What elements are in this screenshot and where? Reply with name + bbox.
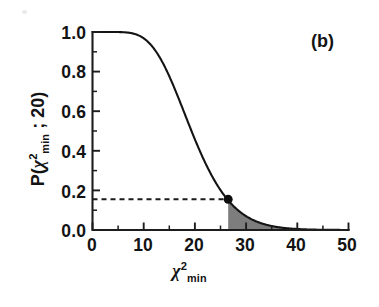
y-tick-label-5: 0.2 xyxy=(44,184,86,202)
y-tick-label-2: 0.8 xyxy=(44,64,86,82)
y-axis-title: P(χ2min ; 20) xyxy=(29,39,47,239)
panel-label: (b) xyxy=(311,31,334,52)
chi-square-tail-probability-figure: 1.0 0.8 0.6 0.4 0.2 0.0 0 10 20 30 40 50… xyxy=(0,0,379,307)
x-axis-title: χ2min xyxy=(0,262,379,280)
x-tick-label-4: 30 xyxy=(227,237,263,255)
y-tick-label-3: 0.6 xyxy=(44,104,86,122)
axis-spines xyxy=(93,32,349,230)
y-tick-label-1: 1.0 xyxy=(44,25,86,43)
y-axis-title-separator: ; xyxy=(28,118,48,134)
x-axis-title-chi: χ xyxy=(172,261,180,281)
x-tick-label-6: 50 xyxy=(329,237,365,255)
y-axis-title-subscript: min xyxy=(39,134,51,154)
x-tick-label-3: 20 xyxy=(176,237,212,255)
axis-ticks xyxy=(93,32,349,230)
y-axis-title-prefix: P( xyxy=(28,168,48,186)
x-axis-title-exponent: 2 xyxy=(181,260,187,272)
y-axis-title-suffix: ) xyxy=(28,92,48,98)
y-axis-title-dof: 20 xyxy=(28,98,48,118)
x-tick-label-2: 10 xyxy=(125,237,161,255)
x-tick-label-5: 40 xyxy=(278,237,314,255)
y-axis-title-chi: χ xyxy=(28,160,48,168)
survival-function-curve xyxy=(93,32,349,230)
x-axis-title-subscript: min xyxy=(187,272,207,284)
x-tick-label-1: 0 xyxy=(74,237,110,255)
critical-point-marker xyxy=(224,195,233,204)
y-axis-title-exponent: 2 xyxy=(27,154,39,160)
